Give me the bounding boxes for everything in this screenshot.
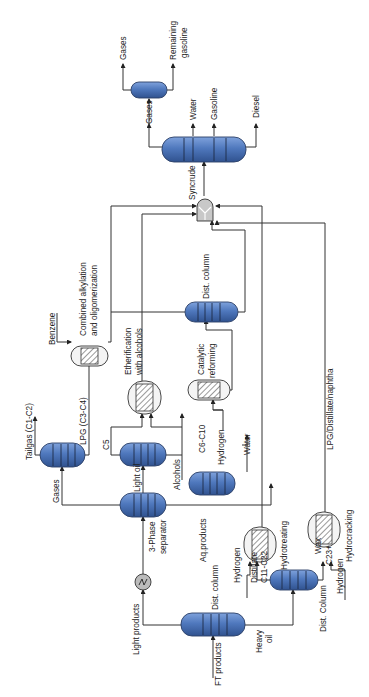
label-gases: Gases [52,479,61,503]
label-lpg-distillate-naphtha: LPG/Distillate/naphtha [326,368,335,450]
label-tailgas: Tailgas (C1-C2) [25,403,34,460]
label-heavy-oil-2: oil [265,635,274,643]
label-light-products: Light products [132,604,141,655]
label-etherification-1: Etherification [124,327,133,375]
label-main-dist-column: Dist. column [211,565,220,610]
reformate-dist-column [185,302,238,322]
main-dist-column [181,613,245,636]
label-ft-products: FT products [214,642,223,686]
aq-column [189,472,235,495]
label-out-gases: Gases [145,100,154,124]
label-reformate-dist-column: Dist. column [202,254,211,299]
label-heavy-oil-1: Heavy [255,629,264,653]
label-remaining-1: Remaining [169,20,178,60]
label-alkylation-2: and oligomerization [90,265,99,336]
etherification-reactor [128,381,161,414]
three-phase-separator [120,493,166,517]
label-distillate: Distillate [250,552,259,583]
gas-column [40,443,85,467]
label-hydrotreating: Hydrotreating [280,520,289,570]
label-hydrogen-hc: Hydrogen [336,558,345,594]
label-aq-products: Aq.products [199,518,208,562]
heater-icon [135,574,151,590]
label-out-gasoline: Gasoline [210,87,219,120]
label-alcohols: Alcohols [173,459,182,490]
label-reforming-1: Catalytic [197,344,206,375]
label-alkylation-1: Combined alkylation [79,262,88,336]
label-etherification-2: with alcohols [135,328,144,376]
label-3phase-1: 3-Phase [148,521,157,552]
label-out-water: Water [189,98,198,120]
final-column [162,137,246,162]
label-c5: C5 [102,439,111,450]
light-oil-column [120,443,166,466]
label-c6-c10: C6-C10 [198,424,207,453]
label-reforming-2: reforming [208,343,217,378]
gas-splitter-vessel [131,82,167,98]
heavy-dist-column [270,570,318,590]
label-light-oil: Light oil [133,464,142,492]
label-heavy-dist-column: Dist. Column [319,585,328,632]
label-lpg: LPG (C3-C4) [79,397,88,445]
label-hydrocracking: Hydrocracking [345,509,354,562]
label-wax: Wax [314,538,323,554]
process-flow-diagram: FT products Dist. column Light products … [0,0,369,697]
label-3phase-2: separator [159,519,168,554]
label-water-aq: Water [243,433,252,455]
catalytic-reforming-reactor [188,380,230,400]
label-c23-plus: C23+ [325,545,334,565]
alkylation-reactor [71,346,108,366]
label-benzene: Benzene [48,312,57,345]
label-remaining-2: gasoline [180,27,189,58]
label-syncrude: Syncrude [188,165,197,200]
label-hydrogen-reforming: Hydrogen [217,429,226,465]
label-hydrogen-ht: Hydrogen [233,547,242,583]
label-split-gases: Gases [119,36,128,60]
label-c11-c22: C11-C22 [260,550,269,583]
syncrude-mixer-icon [197,199,213,221]
label-out-diesel: Diesel [252,95,261,118]
hydrocracking-reactor [308,512,340,547]
